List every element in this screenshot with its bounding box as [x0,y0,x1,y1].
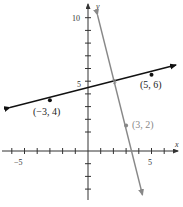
y-axis [85,4,91,200]
x-axis [2,148,178,154]
point-5-6 [150,73,154,77]
point-neg3-4 [48,98,52,102]
y-axis-label: y [95,2,100,11]
point-3-2 [124,124,128,128]
coordinate-plane: y x −5 5 5 10 (−3, 4) (5, 6) (3, 2) [0,0,183,207]
line-gray [98,15,143,195]
x-axis-label: x [174,140,179,149]
x-tick-label-5: 5 [148,158,152,167]
y-tick-label-5: 5 [77,80,81,89]
label-point-5-6: (5, 6) [140,79,162,91]
y-tick-label-10: 10 [72,14,80,23]
label-point-3-2: (3, 2) [132,119,154,131]
label-point-neg3-4: (−3, 4) [33,106,60,118]
x-tick-label-neg5: −5 [14,158,23,167]
